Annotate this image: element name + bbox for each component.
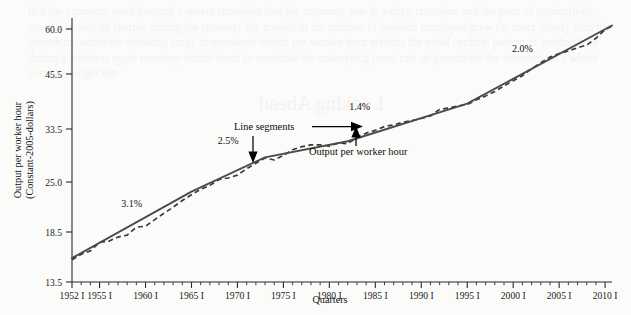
growth-label-3.1: 3.1% xyxy=(121,198,142,209)
x-axis-ticks xyxy=(72,282,605,288)
y-axis-title-line2: (Constant-2005-dollars) xyxy=(24,101,36,199)
chart-svg: 60.0 45.5 33.5 25.0 18.5 13.5 1952 I1955… xyxy=(0,0,631,315)
figure-page: that the economy went through a severe r… xyxy=(0,0,631,315)
x-ticklabel-1960: 1960 I xyxy=(133,290,158,301)
x-ticklabel-1995: 1995 I xyxy=(455,290,480,301)
y-ticklabel-18.5: 18.5 xyxy=(45,227,62,238)
x-ticklabel-2010: 2010 I xyxy=(593,290,618,301)
x-ticklabel-1990: 1990 I xyxy=(409,290,434,301)
x-ticklabel-1955: 1955 I xyxy=(87,290,112,301)
x-ticklabel-1970: 1970 I xyxy=(225,290,250,301)
series-line-segments xyxy=(72,26,612,259)
y-ticklabel-25: 25.0 xyxy=(45,177,62,188)
y-ticklabel-60: 60.0 xyxy=(45,24,62,35)
growth-label-2.0: 2.0% xyxy=(512,43,533,54)
x-ticklabel-1985: 1985 I xyxy=(363,290,388,301)
y-axis-ticks: 60.0 45.5 33.5 25.0 18.5 13.5 xyxy=(45,24,72,288)
annotation-output-label: Output per worker hour xyxy=(309,146,408,157)
y-axis-title-line1: Output per worker hour xyxy=(12,101,23,198)
growth-label-2.5: 2.5% xyxy=(218,135,239,146)
x-ticklabel-1965: 1965 I xyxy=(179,290,204,301)
x-ticklabel-2005: 2005 I xyxy=(547,290,572,301)
x-axis-title: Quarters xyxy=(312,294,347,305)
annotation-output-per-worker-hour: Output per worker hour xyxy=(309,126,408,157)
annotation-line-segments-label: Line segments xyxy=(234,121,294,132)
y-ticklabel-33.5: 33.5 xyxy=(45,124,62,135)
x-ticklabel-2000: 2000 I xyxy=(501,290,526,301)
growth-label-1.4: 1.4% xyxy=(349,101,370,112)
x-ticklabel-1952: 1952 I xyxy=(60,290,85,301)
x-ticklabel-1975: 1975 I xyxy=(271,290,296,301)
y-ticklabel-45.5: 45.5 xyxy=(45,69,62,80)
y-ticklabel-13.5: 13.5 xyxy=(45,277,62,288)
